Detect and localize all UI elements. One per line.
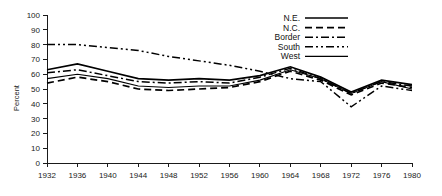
x-tick-label: 1944: [129, 171, 147, 180]
x-axis-tick-labels: 1932193619401944194819521956196019641968…: [38, 171, 421, 180]
line-chart-figure: 0102030405060708090100 19321936194019441…: [0, 0, 442, 196]
x-tick-label: 1956: [221, 171, 239, 180]
data-series-group: [47, 45, 412, 107]
x-tick-label: 1940: [99, 171, 117, 180]
x-tick-label: 1936: [69, 171, 87, 180]
y-tick-label: 50: [31, 85, 40, 94]
y-tick-label: 40: [31, 100, 40, 109]
x-tick-label: 1964: [281, 171, 299, 180]
y-axis-title: Percent: [12, 84, 21, 111]
y-tick-label: 70: [31, 55, 40, 64]
x-tick-label: 1948: [160, 171, 178, 180]
legend-label-ne: N.E.: [283, 13, 300, 23]
x-tick-label: 1960: [251, 171, 269, 180]
x-tick-label: 1932: [38, 171, 56, 180]
legend-label-nc: N.C.: [283, 23, 300, 33]
legend-label-south: South: [278, 42, 300, 52]
y-tick-label: 0: [36, 159, 41, 168]
x-tick-label: 1972: [342, 171, 360, 180]
chart-legend: N.E.N.C.BorderSouthWest: [274, 13, 348, 61]
y-tick-label: 60: [31, 70, 40, 79]
y-tick-label: 100: [27, 11, 41, 20]
legend-label-west: West: [281, 51, 301, 61]
x-tick-label: 1952: [190, 171, 208, 180]
x-tick-label: 1976: [373, 171, 391, 180]
y-tick-label: 10: [31, 144, 40, 153]
y-tick-label: 20: [31, 129, 40, 138]
series-line-south: [47, 45, 412, 107]
chart-canvas: 0102030405060708090100 19321936194019441…: [0, 0, 442, 196]
y-tick-label: 80: [31, 41, 40, 50]
y-tick-label: 90: [31, 26, 40, 35]
x-tick-label: 1968: [312, 171, 330, 180]
legend-label-border: Border: [274, 32, 300, 42]
y-tick-label: 30: [31, 115, 40, 124]
y-axis-tick-labels: 0102030405060708090100: [27, 11, 41, 168]
x-tick-label: 1980: [403, 171, 421, 180]
